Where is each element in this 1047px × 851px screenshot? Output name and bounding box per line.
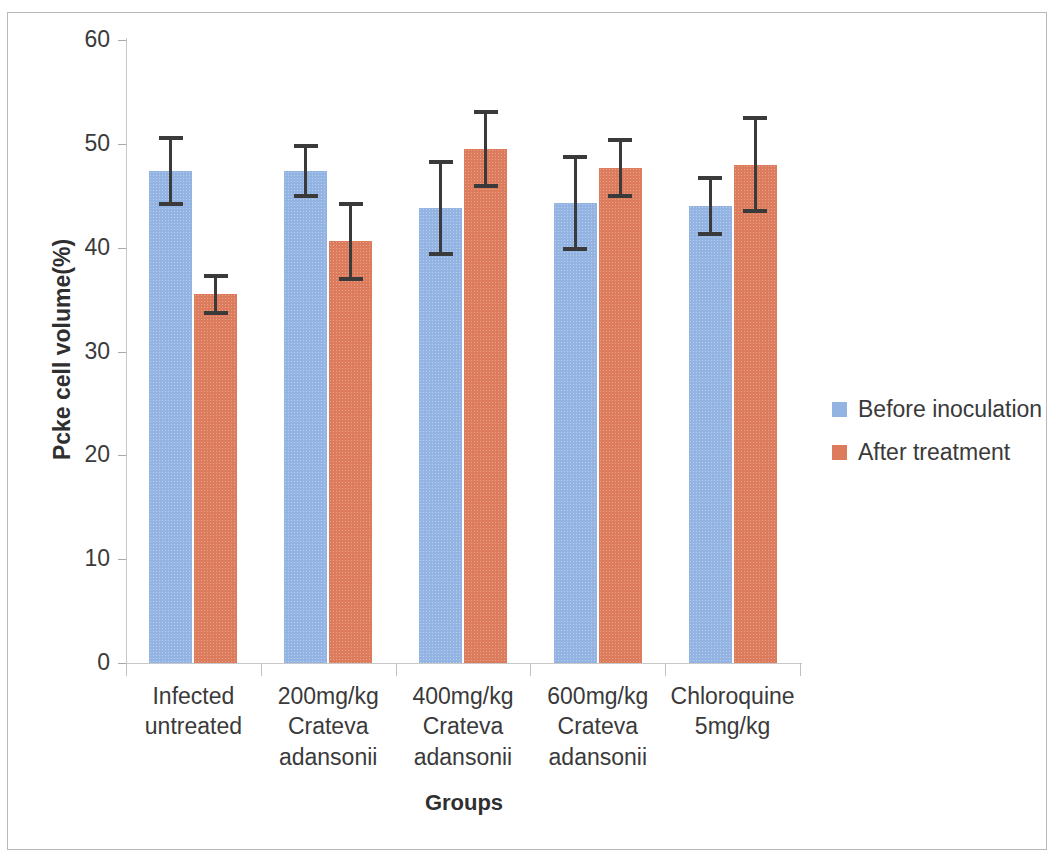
- category-separator-tick: [665, 663, 666, 676]
- category-label-line: adansonii: [520, 742, 675, 772]
- y-axis-tick-label: 20: [48, 443, 110, 466]
- category-separator-tick: [396, 663, 397, 676]
- bar-after[interactable]: [194, 294, 237, 663]
- error-bar-stem: [574, 155, 577, 251]
- y-axis-tick: [118, 40, 126, 41]
- error-bar-cap-bottom: [698, 232, 722, 236]
- category-label-line: 200mg/kg: [251, 681, 406, 711]
- error-bar-cap-top: [429, 160, 453, 164]
- bar-before[interactable]: [689, 206, 732, 663]
- error-bar: [294, 144, 318, 198]
- category-label-line: Crateva: [386, 711, 541, 741]
- category-label-line: adansonii: [251, 742, 406, 772]
- category-label-line: Crateva: [251, 711, 406, 741]
- category-label-line: Infected: [116, 681, 271, 711]
- category-separator-tick: [261, 663, 262, 676]
- y-axis-tick: [118, 144, 126, 145]
- legend-swatch-icon: [832, 445, 847, 460]
- category-separator-tick: [530, 663, 531, 676]
- category-separator-tick: [126, 663, 127, 676]
- error-bar: [563, 155, 587, 251]
- error-bar-stem: [709, 176, 712, 236]
- y-axis-tick: [118, 248, 126, 249]
- bar-after[interactable]: [599, 168, 642, 663]
- y-axis-tick: [118, 559, 126, 560]
- error-bar-stem: [484, 110, 487, 189]
- category-label-line: untreated: [116, 711, 271, 741]
- error-bar: [204, 274, 228, 316]
- error-bar-cap-bottom: [429, 252, 453, 256]
- error-bar-cap-bottom: [608, 194, 632, 198]
- bar-after[interactable]: [329, 241, 372, 663]
- x-axis-category-label: Chloroquine5mg/kg: [655, 681, 810, 742]
- error-bar-cap-bottom: [743, 209, 767, 213]
- error-bar-cap-top: [698, 176, 722, 180]
- error-bar: [743, 116, 767, 214]
- error-bar-stem: [214, 274, 217, 316]
- bar-before[interactable]: [554, 203, 597, 663]
- legend-item[interactable]: After treatment: [832, 441, 1032, 464]
- error-bar: [698, 176, 722, 236]
- error-bar-stem: [169, 136, 172, 207]
- error-bar: [159, 136, 183, 207]
- legend-label: After treatment: [858, 441, 1010, 464]
- x-axis-category-label: 400mg/kgCratevaadansonii: [386, 681, 541, 772]
- error-bar-cap-top: [608, 138, 632, 142]
- y-axis-tick-label: 40: [48, 236, 110, 259]
- error-bar-cap-top: [339, 202, 363, 206]
- error-bar-cap-bottom: [474, 184, 498, 188]
- category-label-line: Crateva: [520, 711, 675, 741]
- bar-before[interactable]: [419, 208, 462, 663]
- error-bar-cap-bottom: [563, 247, 587, 251]
- plot-area: [126, 40, 800, 663]
- x-axis-line: [126, 663, 802, 664]
- legend-swatch-icon: [832, 402, 847, 417]
- x-axis-category-label: Infecteduntreated: [116, 681, 271, 742]
- error-bar-cap-bottom: [339, 277, 363, 281]
- error-bar: [474, 110, 498, 189]
- bar-after[interactable]: [464, 149, 507, 663]
- y-axis-tick-label: 10: [48, 547, 110, 570]
- x-axis-category-label: 200mg/kgCratevaadansonii: [251, 681, 406, 772]
- y-axis-tick-label: 30: [48, 340, 110, 363]
- error-bar-cap-bottom: [294, 194, 318, 198]
- error-bar: [429, 160, 453, 256]
- error-bar-stem: [619, 138, 622, 198]
- category-label-line: 600mg/kg: [520, 681, 675, 711]
- error-bar-stem: [304, 144, 307, 198]
- category-separator-tick: [800, 663, 801, 676]
- error-bar-cap-top: [159, 136, 183, 140]
- error-bar: [608, 138, 632, 198]
- y-axis-tick: [118, 352, 126, 353]
- chart-legend: Before inoculationAfter treatment: [832, 398, 1032, 484]
- error-bar-cap-top: [563, 155, 587, 159]
- bar-before[interactable]: [149, 171, 192, 663]
- y-axis-tick: [118, 455, 126, 456]
- y-axis-tick-label: 60: [48, 28, 110, 51]
- error-bar-cap-top: [294, 144, 318, 148]
- x-axis-title: Groups: [126, 790, 802, 816]
- category-label-line: Chloroquine: [655, 681, 810, 711]
- error-bar-stem: [439, 160, 442, 256]
- error-bar-cap-bottom: [159, 202, 183, 206]
- error-bar: [339, 202, 363, 281]
- error-bar-cap-top: [743, 116, 767, 120]
- category-label-line: 5mg/kg: [655, 711, 810, 741]
- bar-before[interactable]: [284, 171, 327, 663]
- category-label-line: 400mg/kg: [386, 681, 541, 711]
- y-axis-tick: [118, 663, 126, 664]
- error-bar-cap-top: [204, 274, 228, 278]
- error-bar-stem: [349, 202, 352, 281]
- error-bar-cap-top: [474, 110, 498, 114]
- category-label-line: adansonii: [386, 742, 541, 772]
- y-axis-tick-label: 0: [48, 651, 110, 674]
- y-axis-tick-label: 50: [48, 132, 110, 155]
- legend-label: Before inoculation: [858, 398, 1042, 421]
- error-bar-stem: [754, 116, 757, 214]
- bar-after[interactable]: [734, 165, 777, 663]
- legend-item[interactable]: Before inoculation: [832, 398, 1032, 421]
- error-bar-cap-bottom: [204, 311, 228, 315]
- x-axis-category-label: 600mg/kgCratevaadansonii: [520, 681, 675, 772]
